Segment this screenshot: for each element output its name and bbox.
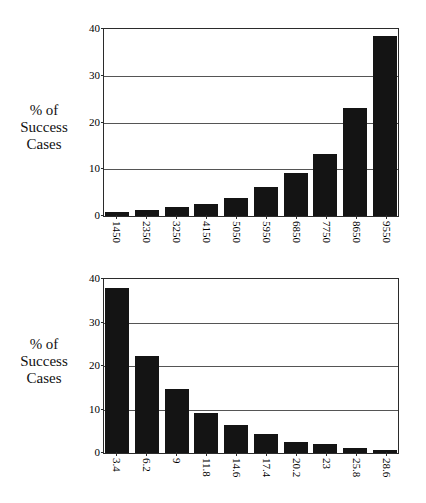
bar bbox=[105, 212, 129, 216]
chart-top: % of Success Cases 010203040 14502350325… bbox=[0, 0, 426, 260]
x-tick-label: 4150 bbox=[201, 221, 212, 243]
x-tick: 23 bbox=[314, 456, 338, 496]
x-tick: 17.4 bbox=[254, 456, 278, 496]
x-tick-mark bbox=[386, 452, 387, 456]
x-tick: 9550 bbox=[374, 219, 398, 259]
x-tick-mark bbox=[296, 452, 297, 456]
bar bbox=[343, 108, 367, 216]
x-tick-label: 7750 bbox=[321, 221, 332, 243]
x-tick-label: 3250 bbox=[171, 221, 182, 243]
x-tick: 2350 bbox=[134, 219, 158, 259]
x-tick: 8650 bbox=[344, 219, 368, 259]
x-tick-label: 25.8 bbox=[351, 458, 362, 477]
x-tick-mark bbox=[356, 215, 357, 219]
x-tick-mark bbox=[326, 215, 327, 219]
x-tick-label: 2350 bbox=[141, 221, 152, 243]
x-tick: 7750 bbox=[314, 219, 338, 259]
bar bbox=[194, 413, 218, 453]
x-tick-mark bbox=[236, 452, 237, 456]
x-tick-mark bbox=[266, 215, 267, 219]
bar-series-top bbox=[104, 29, 398, 216]
x-tick: 5050 bbox=[224, 219, 248, 259]
x-tick-label: 5950 bbox=[261, 221, 272, 243]
x-tick-mark bbox=[206, 215, 207, 219]
bar bbox=[135, 356, 159, 453]
x-tick-label: 9 bbox=[171, 458, 182, 464]
x-tick-mark bbox=[146, 215, 147, 219]
x-tick: 11.8 bbox=[194, 456, 218, 496]
x-tick: 3250 bbox=[164, 219, 188, 259]
bar bbox=[373, 450, 397, 453]
x-tick: 14.6 bbox=[224, 456, 248, 496]
y-tick-label: 30 bbox=[89, 317, 100, 328]
x-tick: 28.6 bbox=[374, 456, 398, 496]
bar bbox=[254, 187, 278, 216]
x-tick: 25.8 bbox=[344, 456, 368, 496]
x-tick: 1450 bbox=[104, 219, 128, 259]
x-tick-mark bbox=[116, 452, 117, 456]
bar bbox=[105, 288, 129, 453]
x-axis-labels-top: 1450235032504150505059506850775086509550 bbox=[103, 219, 399, 259]
y-tick-label: 10 bbox=[89, 163, 100, 174]
x-tick-label: 28.6 bbox=[381, 458, 392, 477]
y-tick-label: 0 bbox=[95, 210, 101, 221]
y-tick-label: 0 bbox=[95, 447, 101, 458]
bar-series-bottom bbox=[104, 279, 398, 453]
bar bbox=[254, 434, 278, 453]
x-tick-label: 6.2 bbox=[141, 458, 152, 472]
bar bbox=[165, 389, 189, 453]
y-tick-label: 20 bbox=[89, 360, 100, 371]
x-tick-mark bbox=[116, 215, 117, 219]
x-tick: 5950 bbox=[254, 219, 278, 259]
plot-area-top bbox=[103, 28, 399, 217]
x-tick: 6.2 bbox=[134, 456, 158, 496]
x-tick-mark bbox=[386, 215, 387, 219]
x-tick-mark bbox=[296, 215, 297, 219]
x-tick-mark bbox=[146, 452, 147, 456]
plot-area-bottom bbox=[103, 278, 399, 454]
bar bbox=[284, 173, 308, 216]
x-tick: 9 bbox=[164, 456, 188, 496]
x-tick: 4150 bbox=[194, 219, 218, 259]
x-axis-labels-bottom: 3.46.2911.814.617.420.22325.828.6 bbox=[103, 456, 399, 496]
x-tick-label: 11.8 bbox=[201, 458, 212, 477]
y-axis-labels-bottom: 010203040 bbox=[74, 278, 100, 453]
bar bbox=[224, 198, 248, 216]
y-axis-labels-top: 010203040 bbox=[74, 28, 100, 216]
x-tick-label: 5050 bbox=[231, 221, 242, 243]
x-tick-mark bbox=[236, 215, 237, 219]
y-tick-label: 40 bbox=[89, 273, 100, 284]
x-tick-label: 23 bbox=[321, 458, 332, 469]
x-tick: 6850 bbox=[284, 219, 308, 259]
x-tick-label: 1450 bbox=[111, 221, 122, 243]
x-tick-label: 6850 bbox=[291, 221, 302, 243]
x-tick-label: 9550 bbox=[381, 221, 392, 243]
x-tick-label: 8650 bbox=[351, 221, 362, 243]
x-tick-mark bbox=[176, 215, 177, 219]
chart-bottom: % of Success Cases 010203040 3.46.2911.8… bbox=[0, 260, 426, 503]
x-tick-label: 14.6 bbox=[231, 458, 242, 477]
y-tick-label: 10 bbox=[89, 404, 100, 415]
x-tick-label: 20.2 bbox=[291, 458, 302, 477]
x-tick: 20.2 bbox=[284, 456, 308, 496]
bar bbox=[224, 425, 248, 453]
x-tick-mark bbox=[356, 452, 357, 456]
bar bbox=[373, 36, 397, 216]
bar bbox=[313, 154, 337, 216]
y-tick-label: 20 bbox=[89, 117, 100, 128]
figure-page: % of Success Cases 010203040 14502350325… bbox=[0, 0, 426, 503]
x-tick-mark bbox=[176, 452, 177, 456]
x-tick-label: 17.4 bbox=[261, 458, 272, 477]
x-tick-mark bbox=[206, 452, 207, 456]
x-tick-mark bbox=[266, 452, 267, 456]
x-tick-label: 3.4 bbox=[111, 458, 122, 472]
y-tick-label: 40 bbox=[89, 23, 100, 34]
x-tick-mark bbox=[326, 452, 327, 456]
x-tick: 3.4 bbox=[104, 456, 128, 496]
y-tick-label: 30 bbox=[89, 70, 100, 81]
